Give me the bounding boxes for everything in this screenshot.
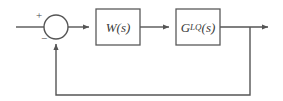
summing-junction-minus-sign: − — [41, 33, 47, 44]
g-block-base: G — [181, 21, 190, 34]
g-block-subscript: LQ — [190, 23, 202, 32]
g-block-label: GLQ(s) — [176, 9, 220, 45]
g-block-argument: (s) — [202, 21, 216, 34]
w-block-base: W — [106, 21, 117, 34]
feedback-wire — [56, 27, 250, 95]
w-block-label: W(s) — [96, 9, 140, 45]
w-block-argument: (s) — [117, 21, 131, 34]
block-diagram: + − W(s) GLQ(s) — [0, 0, 283, 101]
summing-junction-circle — [44, 15, 68, 39]
diagram-wires — [0, 0, 283, 101]
summing-junction-plus-sign: + — [36, 10, 42, 21]
